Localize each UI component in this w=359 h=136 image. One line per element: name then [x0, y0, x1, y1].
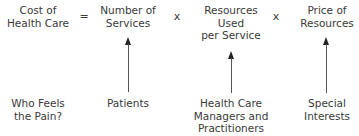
term-line: Resources [300, 17, 354, 30]
multiply-sign: x [174, 10, 181, 23]
term-price-of-resources: Price of Resources [300, 4, 354, 29]
lhs-line: Cost of [7, 4, 69, 17]
bearer-line: Patients [107, 97, 149, 110]
row-label-who-feels-pain: Who Feels the Pain? [11, 97, 65, 122]
term-line: Number of [100, 4, 156, 17]
term-line: per Service [201, 29, 261, 42]
term-line: Price of [300, 4, 354, 17]
bearer-special-interests: Special Interests [304, 97, 350, 122]
bearer-line: Managers and [194, 110, 269, 123]
equals-sign: = [79, 10, 88, 23]
term-resources-per-service: Resources Used per Service [201, 4, 261, 42]
bearer-line: Interests [304, 110, 350, 123]
lhs-line: Health Care [7, 17, 69, 30]
row-label-line: Who Feels [11, 97, 65, 110]
multiply-sign: x [273, 10, 280, 23]
term-line: Resources [201, 4, 261, 17]
bearer-line: Practitioners [194, 122, 269, 135]
bearer-managers-practitioners: Health Care Managers and Practitioners [194, 97, 269, 135]
row-label-line: the Pain? [11, 110, 65, 123]
bearer-patients: Patients [107, 97, 149, 110]
bearer-line: Special [304, 97, 350, 110]
lhs-label: Cost of Health Care [7, 4, 69, 29]
term-line: Services [100, 17, 156, 30]
term-number-of-services: Number of Services [100, 4, 156, 29]
bearer-line: Health Care [194, 97, 269, 110]
term-line: Used [201, 17, 261, 30]
